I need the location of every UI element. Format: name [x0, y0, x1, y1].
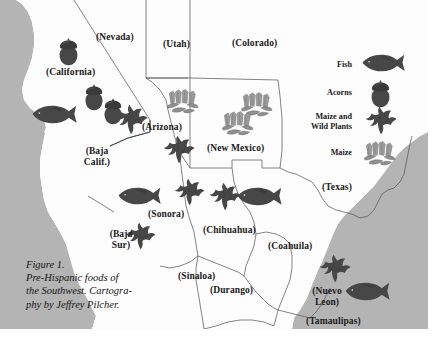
region-label-utah: (Utah) — [163, 39, 190, 50]
label-line-2: Sur) — [112, 240, 130, 250]
region-label-coahuila: (Coahuila) — [268, 241, 312, 252]
legend-label-maize: Maize — [302, 148, 352, 158]
legend-label-maize-and-wild-plants: Maize and Wild Plants — [292, 112, 352, 131]
region-label-sonora: (Sonora) — [148, 209, 184, 220]
wild-plants-icon — [162, 135, 196, 164]
legend-label-line-2: Wild Plants — [311, 122, 352, 131]
label-line-2: Calif.) — [84, 157, 110, 167]
legend-label-line-1: Maize and — [315, 112, 352, 121]
legend-label-acorns: Acorns — [302, 88, 352, 98]
caption-line-3: the Southwest. Cartogra- — [26, 284, 158, 297]
region-label-durango: (Durango) — [210, 285, 253, 296]
region-label-baja-california: (Baja Calif.) — [77, 146, 117, 167]
figure-caption: Figure 1. Pre-Hispanic foods of the Sout… — [26, 258, 158, 311]
region-label-new-mexico: (New Mexico) — [207, 143, 264, 154]
maize-icon — [166, 88, 200, 116]
label-line-1: (Nuevo — [312, 286, 342, 296]
region-label-chihuahua: (Chihuahua) — [203, 225, 256, 236]
wild-plants-icon — [318, 254, 352, 283]
label-line-1: (Baja — [110, 229, 133, 239]
label-line-2: Leon) — [315, 297, 339, 307]
region-label-texas: (Texas) — [322, 182, 352, 193]
legend-label-fish: Fish — [312, 60, 352, 70]
fish-icon — [118, 186, 162, 206]
region-label-baja-sur: (Baja Sur) — [103, 229, 139, 250]
acorn-icon — [58, 38, 79, 66]
region-label-nuevo-leon: (Nuevo Leon) — [305, 286, 349, 307]
legend-fish-icon — [362, 53, 406, 73]
map-frame: (Nevada) (Utah) (Colorado) (California) … — [0, 0, 428, 329]
wild-plants-icon — [173, 178, 206, 206]
fish-icon — [237, 186, 283, 207]
label-line-1: (Baja — [86, 146, 109, 156]
fish-icon — [32, 104, 78, 125]
legend-maize-icon — [363, 140, 397, 168]
figure-panel: (Nevada) (Utah) (Colorado) (California) … — [0, 0, 439, 347]
caption-line-1: Figure 1. — [26, 258, 158, 271]
acorn-icon — [84, 84, 104, 111]
region-label-colorado: (Colorado) — [232, 38, 277, 49]
legend-wild-plants-icon — [364, 106, 398, 135]
region-label-sinaloa: (Sinaloa) — [178, 271, 215, 282]
caption-line-4: phy by Jeffrey Pilcher. — [26, 298, 158, 311]
fish-icon — [345, 281, 391, 302]
maize-icon — [221, 110, 255, 138]
region-label-tamaulipas: (Tamaulipas) — [306, 316, 361, 327]
region-label-nevada: (Nevada) — [96, 32, 134, 43]
region-label-arizona: (Arizona) — [142, 122, 182, 133]
legend-acorn-icon — [370, 80, 391, 108]
caption-line-2: Pre-Hispanic foods of — [26, 271, 158, 284]
region-label-california: (California) — [46, 67, 95, 78]
